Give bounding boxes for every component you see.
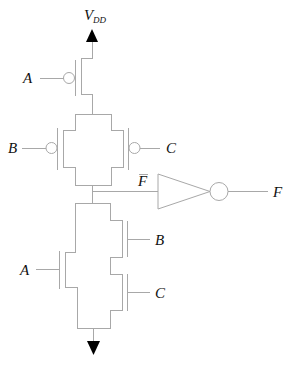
pmos-parallel-block: B C: [8, 114, 177, 186]
internal-node-label: F: [137, 173, 148, 189]
vdd-arrow-icon: [86, 29, 98, 42]
output-label: F: [272, 184, 283, 200]
pmos-a-channel: [82, 42, 93, 114]
input-b-top-label: B: [8, 140, 17, 156]
pmos-c-channel: [112, 114, 124, 186]
internal-node: F: [92, 173, 158, 203]
input-a-bottom-label: A: [19, 262, 30, 278]
nmos-a-channel: [66, 203, 78, 329]
vdd-subscript: DD: [92, 15, 106, 25]
pmos-a-inversion-bubble-icon: [64, 73, 75, 84]
nmos-network: A B C: [19, 203, 166, 355]
input-a-top-label: A: [22, 70, 33, 86]
ground-arrow-icon: [87, 341, 100, 355]
pmos-c-inversion-bubble-icon: [129, 143, 140, 154]
inverter-triangle-icon: [158, 174, 210, 209]
nmos-bc-channel: [111, 203, 123, 329]
output-inverter: F: [158, 174, 283, 209]
cmos-schematic: V DD A B C F F: [0, 0, 295, 369]
inverter-bubble-icon: [210, 183, 228, 201]
pmos-b-inversion-bubble-icon: [46, 143, 57, 154]
pmos-b-channel: [64, 114, 76, 186]
pmos-a: A: [22, 42, 93, 114]
input-b-bottom-label: B: [155, 232, 164, 248]
input-c-top-label: C: [166, 140, 177, 156]
vdd-supply: V DD: [84, 7, 106, 42]
input-c-bottom-label: C: [155, 285, 166, 301]
